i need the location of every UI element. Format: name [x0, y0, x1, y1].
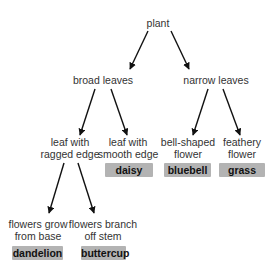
node-flowers-base: flowers grow from base [9, 218, 68, 242]
node-broad-leaves: broad leaves [73, 74, 133, 86]
node-feathery-line2: flower [223, 148, 261, 160]
node-flowers-base-line2: from base [9, 230, 68, 242]
node-smooth-edge: leaf with smooth edge [98, 136, 159, 160]
node-flowers-branch-line1: flowers branch [69, 218, 137, 230]
node-smooth-edge-line1: leaf with [98, 136, 159, 148]
answer-daisy: daisy [105, 163, 153, 177]
node-narrow-leaves-label: narrow leaves [183, 74, 248, 86]
arrow-broad-to-ragged [80, 89, 95, 135]
arrow-plant-to-broad [130, 31, 148, 69]
plant-identification-key: plant broad leaves narrow leaves leaf wi… [0, 0, 276, 271]
answer-dandelion: dandelion [12, 246, 63, 260]
node-smooth-edge-line2: smooth edge [98, 148, 159, 160]
node-bell-shaped: bell-shaped flower [161, 136, 215, 160]
node-flowers-base-line1: flowers grow [9, 218, 68, 230]
node-feathery-line1: feathery [223, 136, 261, 148]
answer-grass: grass [219, 163, 265, 177]
arrow-plant-to-narrow [171, 31, 189, 69]
arrow-ragged-to-branch [78, 163, 94, 213]
node-bell-shaped-line2: flower [161, 148, 215, 160]
node-ragged-edge: leaf with ragged edge [41, 136, 100, 160]
node-broad-leaves-label: broad leaves [73, 74, 133, 86]
answer-buttercup: buttercup [81, 246, 126, 260]
node-plant: plant [147, 17, 170, 29]
node-flowers-branch: flowers branch off stem [69, 218, 137, 242]
node-flowers-branch-line2: off stem [69, 230, 137, 242]
answer-bluebell: bluebell [164, 163, 211, 177]
arrow-broad-to-smooth [111, 89, 127, 135]
arrow-narrow-to-feathery [223, 89, 240, 135]
node-ragged-edge-line1: leaf with [41, 136, 100, 148]
node-narrow-leaves: narrow leaves [183, 74, 248, 86]
arrow-ragged-to-base [49, 163, 64, 213]
node-bell-shaped-line1: bell-shaped [161, 136, 215, 148]
node-plant-label: plant [147, 17, 170, 29]
node-ragged-edge-line2: ragged edge [41, 148, 100, 160]
node-feathery: feathery flower [223, 136, 261, 160]
arrow-narrow-to-bell [193, 89, 208, 135]
